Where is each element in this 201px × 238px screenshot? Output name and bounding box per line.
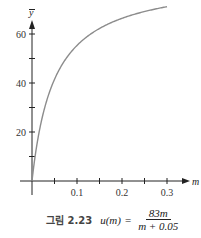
function-name: u(m) xyxy=(100,214,121,226)
x-tick-label: 0.2 xyxy=(116,187,129,198)
series-line xyxy=(32,7,167,181)
figure-number: 그림 2.23 xyxy=(46,212,92,227)
y-axis-label: y xyxy=(28,7,34,18)
y-tick-label: 40 xyxy=(16,78,26,89)
figure-caption: 그림 2.23 u(m) = 83m m + 0.05 xyxy=(46,207,181,232)
series xyxy=(32,7,167,181)
ticks: 0.10.20.3204060 xyxy=(16,10,173,199)
y-tick-label: 20 xyxy=(16,127,26,138)
x-tick-label: 0.1 xyxy=(71,187,84,198)
y-tick-label: 60 xyxy=(16,29,26,40)
x-axis-label: m xyxy=(192,176,199,187)
x-tick-label: 0.3 xyxy=(161,187,174,198)
equals-sign: = xyxy=(125,214,131,226)
y-axis-arrow xyxy=(29,20,35,29)
x-axis-arrow xyxy=(182,178,190,184)
fraction-denominator: m + 0.05 xyxy=(135,220,181,232)
fraction: 83m m + 0.05 xyxy=(135,207,181,232)
chart: m y 0.10.20.3204060 xyxy=(0,0,201,238)
fraction-numerator: 83m xyxy=(146,207,171,220)
